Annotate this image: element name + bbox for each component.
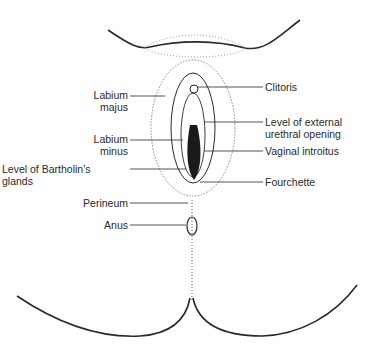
label-line: Labium — [94, 133, 128, 145]
small-circle — [190, 85, 198, 93]
label-vaginal-introitus: Vaginal introitus — [265, 145, 339, 157]
lower-left-contour — [17, 296, 190, 336]
label-labium-majus: Labium majus — [94, 89, 128, 113]
label-bartholin: Level of Bartholin's glands — [2, 163, 90, 187]
label-line: Labium — [94, 89, 128, 101]
upper-contour-line — [108, 20, 300, 49]
label-line: Level of Bartholin's — [2, 163, 90, 175]
small-lower-shape — [187, 217, 197, 235]
label-line: Perineum — [83, 197, 128, 209]
label-line: glands — [2, 175, 90, 187]
label-labium-minus: Labium minus — [94, 133, 128, 157]
label-line: majus — [94, 101, 128, 113]
label-line: Level of external — [265, 116, 342, 128]
label-fourchette: Fourchette — [265, 176, 315, 188]
label-urethral-opening: Level of external urethral opening — [265, 116, 342, 140]
label-line: minus — [94, 145, 128, 157]
label-perineum: Perineum — [83, 197, 128, 209]
label-line: urethral opening — [265, 128, 342, 140]
label-line: Anus — [104, 219, 128, 231]
label-line: Fourchette — [265, 176, 315, 188]
label-anus: Anus — [104, 219, 128, 231]
label-clitoris: Clitoris — [265, 81, 297, 93]
stipple-region — [145, 35, 245, 57]
lower-right-contour — [193, 285, 357, 336]
label-line: Clitoris — [265, 81, 297, 93]
label-line: Vaginal introitus — [265, 145, 339, 157]
